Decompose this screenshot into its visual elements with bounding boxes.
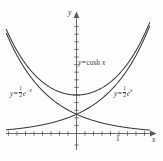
curve-half-e-neg-x	[6, 33, 149, 130]
annotation-neg-exp-equals: =	[13, 89, 18, 98]
annotation-cosh-function: cosh	[86, 58, 100, 67]
annotation-cosh-argument: x	[102, 58, 105, 67]
cosh-function-figure: y=cosh x y=12e−x y=12ex y x 1	[0, 0, 163, 161]
x-axis-tick-label-1: 1	[116, 136, 120, 143]
annotation-neg-exp-exponent: −x	[26, 87, 32, 93]
annotation-half-e-neg-x: y=12e−x	[10, 86, 32, 98]
y-axis-label: y	[68, 9, 71, 17]
plot-canvas	[0, 0, 163, 161]
x-axis-label: x	[152, 136, 155, 144]
annotation-cosh: y=cosh x	[78, 59, 105, 66]
annotation-half-e-x: y=12ex	[114, 86, 132, 98]
annotation-pos-exp-exponent: x	[130, 87, 132, 93]
annotation-pos-exp-equals: =	[117, 89, 122, 98]
y-axis-arrowhead	[74, 12, 80, 19]
